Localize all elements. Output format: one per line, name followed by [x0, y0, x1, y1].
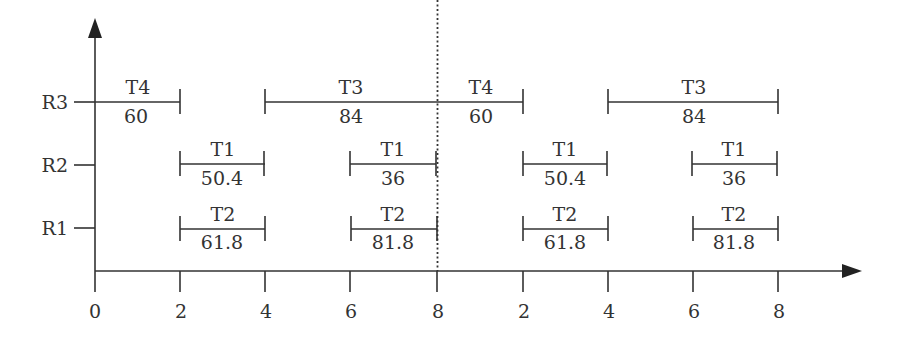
task-name: T1 [722, 138, 747, 160]
y-ticks [74, 102, 95, 228]
y-axis-arrow-icon [88, 18, 102, 38]
task-value: 50.4 [201, 167, 243, 189]
task-value: 81.8 [713, 231, 755, 253]
row-r2-bars [180, 151, 777, 176]
task-value: 81.8 [372, 231, 414, 253]
row-r1-bars [180, 216, 778, 241]
task-name: T3 [339, 76, 364, 98]
x-tick-label: 2 [518, 300, 530, 322]
task-value: 61.8 [201, 231, 243, 253]
task-name: T2 [211, 203, 236, 225]
task-value: 36 [722, 167, 746, 189]
task-value: 84 [682, 105, 706, 127]
task-name: T4 [126, 76, 151, 98]
x-axis-arrow-icon [842, 264, 862, 278]
task-name: T2 [553, 203, 578, 225]
x-tick-label: 0 [89, 300, 101, 322]
task-value: 36 [381, 167, 405, 189]
x-ticks [95, 271, 778, 292]
task-name: T1 [381, 138, 406, 160]
x-tick-label: 4 [260, 300, 272, 322]
task-value: 84 [339, 105, 363, 127]
x-tick-label: 2 [175, 300, 187, 322]
task-name: T4 [469, 76, 494, 98]
x-tick-label: 4 [603, 300, 615, 322]
x-tick-label: 6 [688, 300, 700, 322]
row-r3-bars [95, 89, 778, 114]
task-name: T2 [381, 203, 406, 225]
row-label-r2: R2 [42, 154, 68, 176]
task-name: T1 [553, 138, 578, 160]
task-name: T1 [211, 138, 236, 160]
task-value: 60 [124, 105, 148, 127]
x-tick-label: 6 [345, 300, 357, 322]
task-value: 61.8 [544, 231, 586, 253]
task-name: T3 [682, 76, 707, 98]
task-value: 60 [469, 105, 493, 127]
schedule-diagram: R3 R2 R1 0 2 4 6 8 2 4 6 8 T4 60 T3 84 T… [0, 0, 905, 342]
x-tick-label: 8 [432, 300, 444, 322]
task-value: 50.4 [544, 167, 586, 189]
row-label-r3: R3 [42, 91, 68, 113]
x-tick-label: 8 [773, 300, 785, 322]
row-label-r1: R1 [42, 217, 68, 239]
task-name: T2 [722, 203, 747, 225]
